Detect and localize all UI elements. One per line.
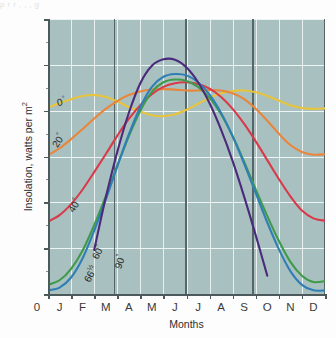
x-tick-label-10: O (254, 301, 280, 313)
y-tick-mark (44, 19, 49, 21)
x-tick-mark (163, 294, 165, 299)
y-minor-tick (46, 225, 49, 226)
y-minor-tick (46, 271, 49, 272)
y-tick-mark (44, 65, 49, 67)
caption-sliver: p r r , , , g (0, 0, 336, 9)
curve-0 (48, 90, 325, 116)
x-tick-mark (210, 294, 212, 299)
curve-20 (48, 89, 325, 155)
x-tick-mark (117, 294, 119, 299)
x-tick-mark (256, 294, 258, 299)
x-axis-title: Months (48, 318, 325, 330)
y-tick-mark (44, 157, 49, 159)
y-minor-tick (46, 179, 49, 180)
x-tick-mark (71, 294, 73, 299)
x-tick-mark (94, 294, 96, 299)
x-tick-mark (140, 294, 142, 299)
x-tick-mark (233, 294, 235, 299)
x-tick-mark (187, 294, 189, 299)
y-axis-title: Insolation, watts per m2 (20, 42, 34, 272)
y-axis-title-exponent: 2 (20, 102, 29, 106)
x-tick-label-4: A (116, 301, 142, 313)
y-tick-mark (44, 111, 49, 113)
x-tick-mark (325, 294, 327, 299)
y-tick-mark (44, 248, 49, 250)
insolation-figure: p r r , , , g 6005004003002001000 JFMAMJ… (0, 0, 336, 338)
x-tick-mark (48, 294, 50, 299)
curve-66 (48, 74, 325, 291)
x-tick-label-1: J (47, 301, 73, 313)
y-tick-mark (44, 202, 49, 204)
x-tick-mark (302, 294, 304, 299)
y-minor-tick (46, 134, 49, 135)
y-axis-title-text: Insolation, watts per m (22, 106, 34, 211)
origin-label: 0 (30, 301, 44, 313)
x-tick-mark (279, 294, 281, 299)
y-minor-tick (46, 42, 49, 43)
y-minor-tick (46, 88, 49, 89)
x-tick-label-7: J (185, 301, 211, 313)
x-tick-label-12: D (300, 301, 326, 313)
